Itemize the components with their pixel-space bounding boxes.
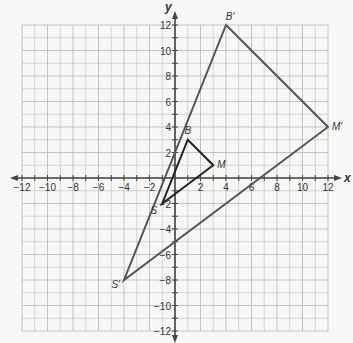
y-tick-label: −4 [160,224,172,235]
x-tick-label: −8 [67,182,79,193]
x-tick-label: −2 [144,182,156,193]
y-tick-label: −8 [160,275,172,286]
axes [10,11,342,343]
x-tick-label: 10 [297,182,309,193]
x-tick-label: 2 [198,182,204,193]
x-tick-label: −10 [39,182,56,193]
y-tick-label: 4 [165,122,171,133]
vertex-label: M [217,159,226,170]
x-arrow-left-icon [10,175,18,181]
x-tick-label: −12 [14,182,31,193]
vertex-label: S′ [111,279,121,290]
y-axis-label: y [164,0,173,14]
x-tick-label: −6 [93,182,105,193]
x-tick-label: 4 [223,182,229,193]
y-arrow-up-icon [172,11,178,19]
y-tick-label: 6 [165,97,171,108]
x-tick-label: 8 [274,182,280,193]
x-arrow-right-icon [334,175,342,181]
y-tick-label: −12 [154,326,171,337]
y-tick-label: 8 [165,71,171,82]
y-tick-label: −10 [154,301,171,312]
y-arrow-down-icon [172,335,178,343]
y-tick-label: 12 [160,20,172,31]
vertex-label: B′ [226,11,236,22]
vertex-label: M′ [332,121,343,132]
coordinate-plane: −12−10−8−6−4−22468101212108642−2−4−6−8−1… [0,0,353,343]
y-tick-label: 10 [160,46,172,57]
vertex-label: B [184,125,191,136]
y-tick-label: 2 [165,148,171,159]
x-axis-label: x [343,171,352,185]
vertex-labels: BMSB′M′S′ [111,11,343,290]
x-tick-label: −4 [118,182,130,193]
x-tick-label: 12 [322,182,334,193]
vertex-label: S [151,205,158,216]
